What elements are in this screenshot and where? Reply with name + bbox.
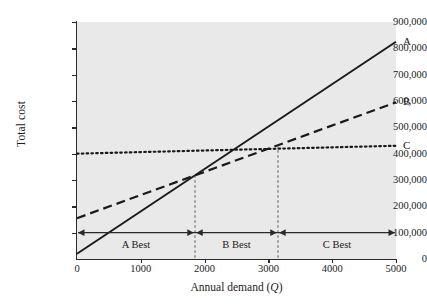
series-label-c: C xyxy=(403,140,410,151)
x-axis-title-close: ) xyxy=(279,281,283,293)
region-c-best: C Best xyxy=(323,239,351,250)
range-arrow-2-right xyxy=(279,229,286,236)
series-label-a: A xyxy=(403,36,411,47)
series-lines xyxy=(77,42,396,254)
range-arrow-left-end xyxy=(78,229,85,236)
series-line-a xyxy=(77,42,396,254)
range-arrow-right-end xyxy=(389,229,396,236)
series-layer xyxy=(0,0,427,307)
x-axis-title-variable: Q xyxy=(270,281,278,293)
region-a-best: A Best xyxy=(122,239,150,250)
series-line-b xyxy=(77,102,396,218)
y-axis-title: Total cost xyxy=(15,79,27,169)
x-axis-title: Annual demand (Q) xyxy=(77,281,396,293)
best-range-arrow-line xyxy=(78,229,395,236)
x-axis-title-text: Annual demand ( xyxy=(191,281,271,293)
range-arrow-1-left xyxy=(187,229,194,236)
range-arrow-2-left xyxy=(270,229,277,236)
range-arrow-1-right xyxy=(196,229,203,236)
series-label-b: B xyxy=(403,96,410,107)
total-cost-vs-annual-demand-chart: 0100,000200,000300,000400,000500,000600,… xyxy=(0,0,427,307)
region-b-best: B Best xyxy=(222,239,250,250)
